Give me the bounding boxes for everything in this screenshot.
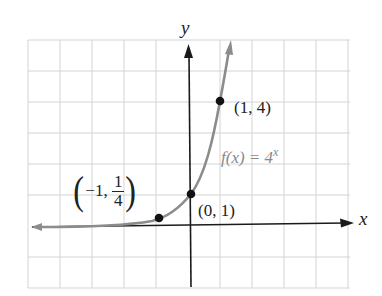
y-axis-label: y	[181, 17, 189, 39]
graph-canvas	[0, 0, 382, 296]
curve-arrow-left-icon	[31, 223, 42, 231]
fraction-numerator: 1	[112, 173, 125, 192]
function-label-base: f(x) = 4	[221, 148, 273, 167]
point-neg1-quarter	[155, 214, 164, 223]
fraction-denominator: 4	[112, 192, 125, 210]
y-axis	[184, 44, 193, 287]
point-label-1-4: (1, 4)	[234, 98, 271, 118]
y-axis-arrow-icon	[184, 44, 193, 58]
point-label-0-1: (0, 1)	[198, 201, 235, 221]
point-0-1	[187, 190, 196, 199]
function-label-exponent: x	[273, 145, 278, 159]
point-label-neg1-quarter: (−1, 14)	[72, 171, 138, 211]
fraction-one-quarter: 14	[112, 173, 125, 210]
function-label: f(x) = 4x	[221, 145, 278, 168]
right-paren: )	[126, 171, 137, 211]
x-axis-label: x	[359, 208, 367, 230]
point-1-4	[216, 97, 225, 106]
point-label-neg1-x: −1,	[85, 181, 112, 200]
left-paren: (	[73, 171, 84, 211]
x-axis-arrow-icon	[340, 219, 354, 228]
curve-arrow-right-icon	[225, 40, 233, 55]
